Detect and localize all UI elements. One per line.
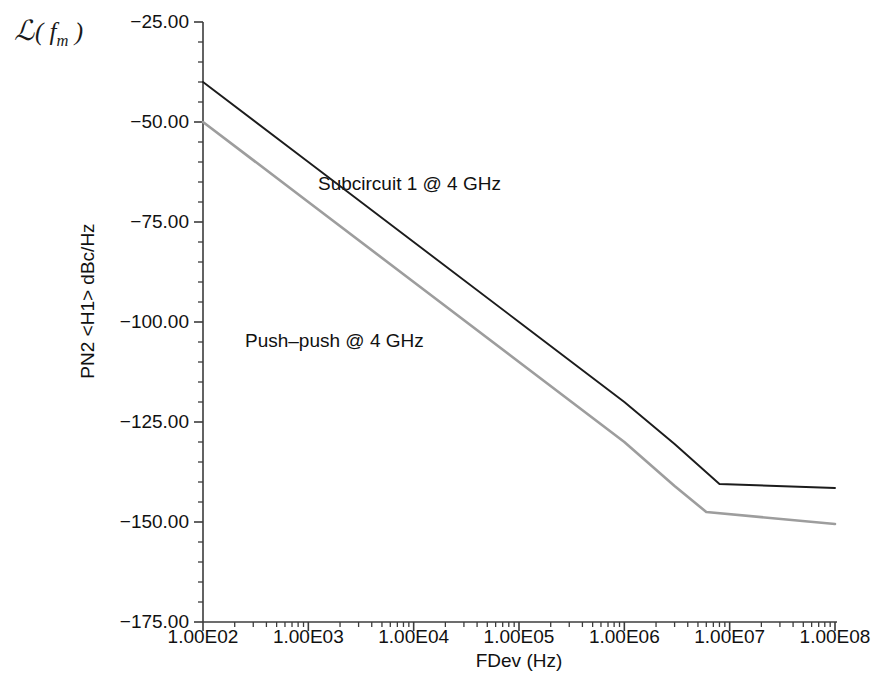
phase-noise-chart: ℒ( fm ) PN2 <H1> dBc/Hz FDev (Hz) −25.00… — [0, 0, 885, 690]
tick-marks — [194, 22, 835, 631]
plot-canvas — [0, 0, 885, 690]
series-line-0 — [203, 82, 835, 488]
series-lines — [203, 82, 835, 524]
